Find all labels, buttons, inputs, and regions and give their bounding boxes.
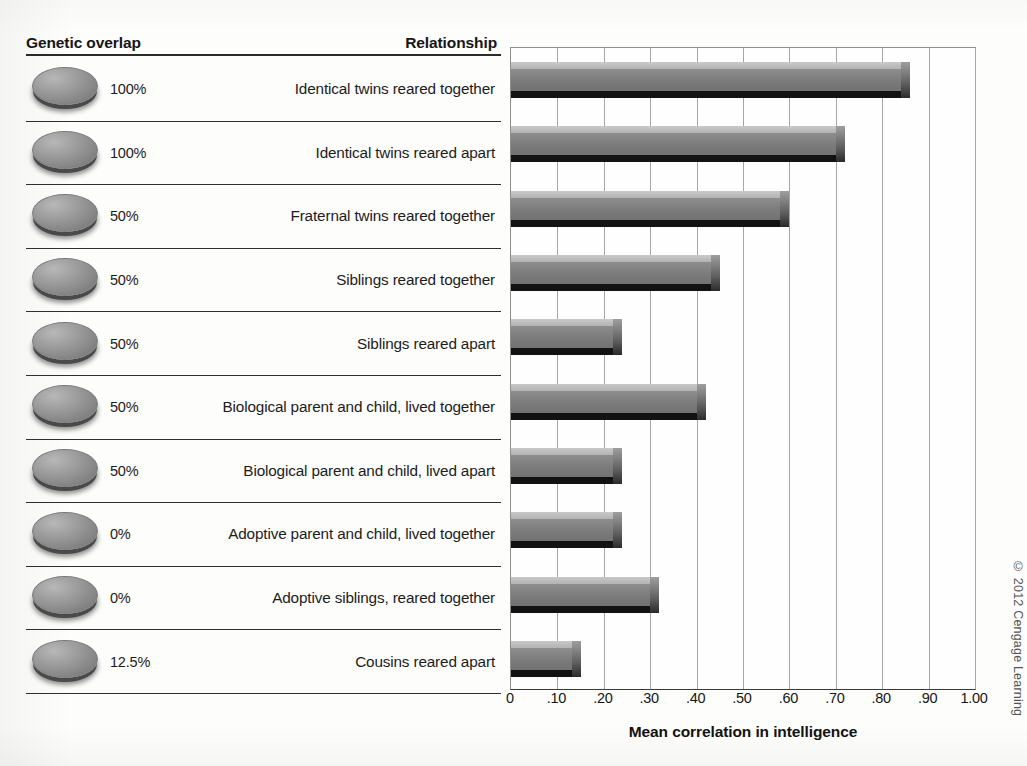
genetic-overlap-value: 50% bbox=[110, 272, 138, 288]
x-tick-label: .50 bbox=[732, 690, 751, 706]
bar bbox=[511, 641, 581, 677]
bar-highlight bbox=[511, 577, 659, 584]
genetic-overlap-value: 50% bbox=[110, 463, 138, 479]
table-row: 100%Identical twins reared apart bbox=[26, 122, 501, 186]
bar-face bbox=[511, 519, 622, 541]
bar bbox=[511, 255, 720, 291]
bar-slot bbox=[511, 48, 975, 112]
bar-highlight bbox=[511, 448, 622, 455]
disc-icon bbox=[32, 512, 98, 556]
bar-end-cap bbox=[711, 255, 720, 291]
bar-highlight bbox=[511, 191, 789, 198]
bar-shadow bbox=[511, 606, 659, 613]
bar-shadow bbox=[511, 670, 581, 677]
bar-slot bbox=[511, 370, 975, 434]
bar-end-cap bbox=[613, 512, 622, 548]
table-row: 50%Siblings reared together bbox=[26, 249, 501, 313]
relationship-label: Fraternal twins reared together bbox=[290, 207, 495, 225]
table-row: 0%Adoptive siblings, reared together bbox=[26, 567, 501, 631]
bar-end-cap bbox=[613, 319, 622, 355]
relationship-label: Siblings reared apart bbox=[357, 335, 495, 353]
bar-slot bbox=[511, 305, 975, 369]
table-body: 100%Identical twins reared together100%I… bbox=[26, 58, 501, 694]
disc-icon bbox=[32, 385, 98, 429]
relationship-label: Adoptive siblings, reared together bbox=[272, 589, 495, 607]
x-tick-label: .10 bbox=[547, 690, 566, 706]
x-tick-label: .70 bbox=[825, 690, 844, 706]
genetic-overlap-value: 100% bbox=[110, 145, 146, 161]
gridline bbox=[975, 48, 976, 689]
genetic-overlap-value: 50% bbox=[110, 336, 138, 352]
bar bbox=[511, 577, 659, 613]
bar-highlight bbox=[511, 255, 720, 262]
table-row: 50%Biological parent and child, lived ap… bbox=[26, 440, 501, 504]
relationship-label: Adoptive parent and child, lived togethe… bbox=[228, 525, 495, 543]
bar-highlight bbox=[511, 126, 845, 133]
bar-slot bbox=[511, 241, 975, 305]
x-tick-label: .90 bbox=[918, 690, 937, 706]
bar-shadow bbox=[511, 413, 706, 420]
bar-face bbox=[511, 648, 581, 670]
relationship-label: Identical twins reared together bbox=[295, 80, 495, 98]
bar-slot bbox=[511, 562, 975, 626]
bar-end-cap bbox=[780, 191, 789, 227]
bar-slot bbox=[511, 627, 975, 691]
bar-face bbox=[511, 133, 845, 155]
bar-slot bbox=[511, 177, 975, 241]
bar bbox=[511, 384, 706, 420]
plot-area bbox=[510, 47, 976, 690]
disc-icon bbox=[32, 640, 98, 684]
bar-highlight bbox=[511, 512, 622, 519]
bar-end-cap bbox=[572, 641, 581, 677]
bar-face bbox=[511, 455, 622, 477]
x-tick-label: .20 bbox=[593, 690, 612, 706]
bar-end-cap bbox=[836, 126, 845, 162]
bar-slot bbox=[511, 112, 975, 176]
bar-face bbox=[511, 198, 789, 220]
x-tick-label: .30 bbox=[640, 690, 659, 706]
bar-shadow bbox=[511, 220, 789, 227]
bar-chart bbox=[510, 47, 976, 690]
bar bbox=[511, 62, 910, 98]
bar-shadow bbox=[511, 155, 845, 162]
header-genetic-overlap: Genetic overlap bbox=[26, 34, 141, 52]
bar bbox=[511, 448, 622, 484]
disc-icon bbox=[32, 194, 98, 238]
x-tick-label: 0 bbox=[506, 690, 514, 706]
bar-end-cap bbox=[613, 448, 622, 484]
bar-shadow bbox=[511, 348, 622, 355]
bar bbox=[511, 319, 622, 355]
relationship-label: Cousins reared apart bbox=[355, 653, 495, 671]
disc-icon bbox=[32, 131, 98, 175]
bar-end-cap bbox=[650, 577, 659, 613]
table-row: 50%Fraternal twins reared together bbox=[26, 185, 501, 249]
x-axis-ticks: 0.10.20.30.40.50.60.70.80.901.00 bbox=[510, 690, 976, 716]
relationship-label: Siblings reared together bbox=[336, 271, 495, 289]
x-tick-label: .60 bbox=[779, 690, 798, 706]
bar-highlight bbox=[511, 384, 706, 391]
genetic-overlap-value: 0% bbox=[110, 590, 131, 606]
disc-icon bbox=[32, 258, 98, 302]
bar-shadow bbox=[511, 284, 720, 291]
table-header-row: Genetic overlap Relationship bbox=[26, 24, 501, 54]
bar-shadow bbox=[511, 541, 622, 548]
bar-shadow bbox=[511, 477, 622, 484]
bar bbox=[511, 126, 845, 162]
table-row: 0%Adoptive parent and child, lived toget… bbox=[26, 503, 501, 567]
bar-end-cap bbox=[901, 62, 910, 98]
copyright-notice: © 2012 Cengage Learning bbox=[1011, 560, 1025, 716]
disc-icon bbox=[32, 449, 98, 493]
genetic-overlap-value: 50% bbox=[110, 399, 138, 415]
table-row: 100%Identical twins reared together bbox=[26, 58, 501, 122]
bar-highlight bbox=[511, 641, 581, 648]
header-rule bbox=[26, 54, 501, 56]
relationship-label: Identical twins reared apart bbox=[316, 144, 495, 162]
x-axis-title: Mean correlation in intelligence bbox=[510, 723, 976, 741]
table-row: 50%Siblings reared apart bbox=[26, 312, 501, 376]
bar-end-cap bbox=[697, 384, 706, 420]
bar-slot bbox=[511, 498, 975, 562]
bar bbox=[511, 512, 622, 548]
relationship-label: Biological parent and child, lived apart bbox=[243, 462, 495, 480]
genetic-overlap-value: 50% bbox=[110, 208, 138, 224]
genetic-overlap-value: 12.5% bbox=[110, 654, 150, 670]
